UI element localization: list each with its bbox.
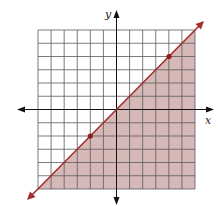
arrow-down-icon xyxy=(114,197,120,205)
y-axis-label: y xyxy=(104,8,112,21)
arrow-left-icon xyxy=(17,107,25,113)
arrow-up-icon xyxy=(114,10,120,18)
arrow-right-icon xyxy=(206,107,214,113)
point-4-4 xyxy=(166,54,171,59)
inequality-graph: x y xyxy=(0,0,218,206)
point-neg2-neg2 xyxy=(88,133,93,138)
x-axis-label: x xyxy=(205,114,212,127)
